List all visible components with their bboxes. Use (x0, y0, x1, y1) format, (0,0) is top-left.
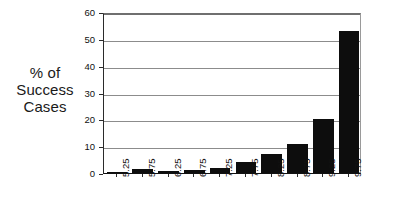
y-axis-tick-label: 0 (73, 169, 95, 179)
x-axis-tick-mark (348, 174, 349, 177)
x-axis-tick-label: 6.75 (198, 147, 208, 177)
x-axis-tick-label: 5.75 (147, 147, 157, 177)
y-axis-tick-label: 20 (73, 115, 95, 125)
x-axis-tick-mark (271, 174, 272, 177)
x-axis-tick-mark (193, 174, 194, 177)
y-axis-tick-label: 50 (73, 35, 95, 45)
x-axis-tick-label: 9.75 (353, 147, 363, 177)
x-axis-tick-label: 5.25 (121, 147, 131, 177)
x-axis-tick-mark (245, 174, 246, 177)
x-axis-tick-mark (116, 174, 117, 177)
y-axis-tick-label: 40 (73, 62, 95, 72)
y-axis-tick-label: 30 (73, 89, 95, 99)
x-axis-tick-mark (142, 174, 143, 177)
x-axis-tick-label: 9.25 (327, 147, 337, 177)
x-axis-tick-label: 6.25 (173, 147, 183, 177)
x-axis-tick-label: 8.75 (302, 147, 312, 177)
y-axis-tick-label: 60 (73, 8, 95, 18)
x-axis-tick-label: 8.25 (276, 147, 286, 177)
x-axis-tick-mark (322, 174, 323, 177)
x-axis-tick-mark (297, 174, 298, 177)
y-axis-tick-label: 10 (73, 142, 95, 152)
bar-chart-figure: % of Success Cases 0102030405060 5.255.7… (0, 0, 394, 211)
y-axis-tick-mark (99, 174, 103, 175)
y-axis-label-line-3: Cases (6, 98, 84, 115)
x-axis-tick-label: 7.25 (224, 147, 234, 177)
x-axis-tick-mark (168, 174, 169, 177)
x-axis-tick-label: 7.75 (250, 147, 260, 177)
x-axis-tick-mark (219, 174, 220, 177)
